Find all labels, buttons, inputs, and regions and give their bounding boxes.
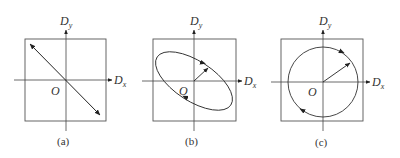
panel-c: Dy Dx O (c) — [271, 14, 385, 149]
field-vector-c — [323, 63, 350, 82]
y-axis-label-c: Dy — [318, 14, 332, 30]
caption-c: (c) — [315, 136, 328, 149]
x-axis-label-c: Dx — [371, 75, 385, 91]
panel-b: Dy Dx O (b) — [142, 14, 257, 148]
x-axis-label-a: Dx — [113, 73, 127, 89]
frame-c — [281, 39, 363, 121]
panel-a: Dy Dx O (a) — [14, 14, 127, 148]
origin-label-b: O — [179, 84, 188, 98]
caption-a: (a) — [57, 135, 70, 148]
y-axis-label-b: Dy — [189, 14, 203, 30]
origin-label-c: O — [308, 85, 317, 99]
origin-label-a: O — [51, 84, 60, 98]
field-vector-b — [194, 68, 208, 81]
x-axis-label-b: Dx — [243, 74, 257, 90]
caption-b: (b) — [185, 135, 198, 148]
polarization-diagram: Dy Dx O (a) Dy Dx O (b) Dy Dx O (c) — [0, 0, 400, 158]
y-axis-label-a: Dy — [59, 14, 73, 30]
linear-polarization-arrow — [30, 44, 100, 115]
